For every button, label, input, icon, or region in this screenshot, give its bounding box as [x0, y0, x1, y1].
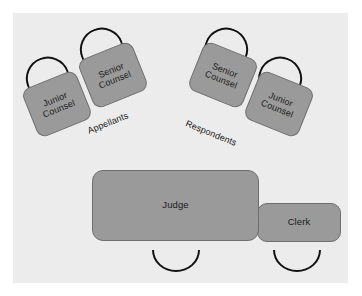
desk-judge-label: Judge [162, 200, 188, 211]
desk-judge-bench[interactable]: Judge [92, 170, 259, 241]
desk-appellant-senior-label: Senior Counsel [94, 59, 133, 90]
chair-judge-icon [152, 250, 200, 274]
desk-appellant-junior-label: Junior Counsel [38, 88, 77, 119]
desk-clerk-label: Clerk [288, 217, 311, 228]
desk-respondent-junior-label: Junior Counsel [260, 88, 299, 119]
chair-clerk-icon [273, 250, 321, 274]
floor-panel [13, 13, 348, 283]
desk-clerk[interactable]: Clerk [257, 203, 341, 242]
courtroom-seating-diagram: Junior Counsel Senior Counsel Appellants… [0, 0, 362, 296]
desk-respondent-senior-label: Senior Counsel [204, 59, 243, 90]
